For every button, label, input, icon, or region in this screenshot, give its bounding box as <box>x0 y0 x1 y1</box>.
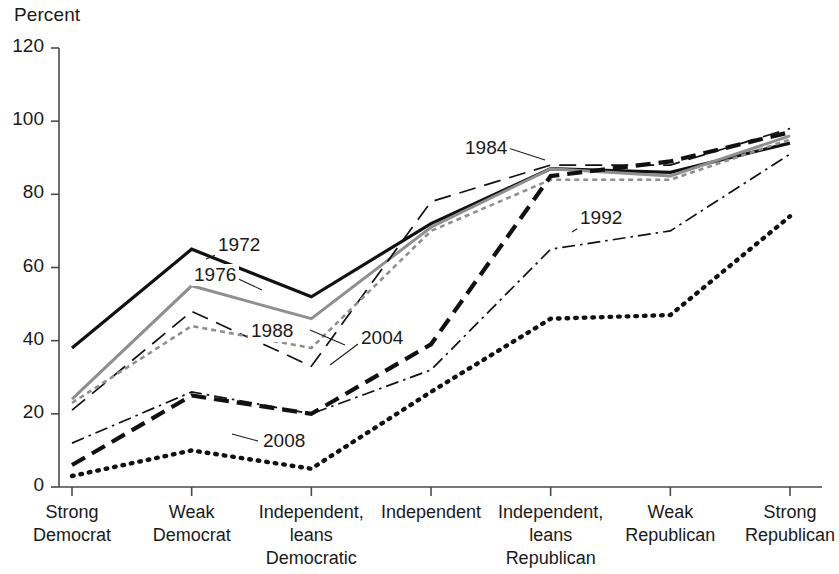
annotation-leader-3 <box>330 344 358 365</box>
series-line-1972 <box>72 143 790 348</box>
annotation-leader-6 <box>232 434 258 441</box>
y-tick-label: 80 <box>0 181 44 203</box>
axis-lines <box>59 48 822 487</box>
series-annotation-1988: 1988 <box>248 320 296 342</box>
y-tick-label: 40 <box>0 328 44 350</box>
y-tick-label: 120 <box>0 35 44 57</box>
series-annotation-1984: 1984 <box>462 137 510 159</box>
annotation-leader-4 <box>508 148 545 160</box>
x-tick-label-line: Republican <box>700 524 839 547</box>
y-tick-label: 60 <box>0 255 44 277</box>
series-annotation-2008: 2008 <box>260 430 308 452</box>
y-tick-label: 0 <box>0 474 44 496</box>
x-tick-label-line: Strong <box>700 501 839 524</box>
x-tick-label-line: Republican <box>461 547 641 570</box>
series-annotation-1992: 1992 <box>577 207 625 229</box>
series-annotation-2004: 2004 <box>358 327 406 349</box>
x-tick-label-6: StrongRepublican <box>700 501 839 547</box>
x-tick-label-line: Democratic <box>221 547 401 570</box>
y-tick-label: 20 <box>0 401 44 423</box>
series-line-1988 <box>72 139 790 402</box>
series-annotation-1976: 1976 <box>191 264 239 286</box>
series-annotation-1972: 1972 <box>215 234 263 256</box>
x-tick-label-line: leans <box>221 524 401 547</box>
y-tick-label: 100 <box>0 108 44 130</box>
